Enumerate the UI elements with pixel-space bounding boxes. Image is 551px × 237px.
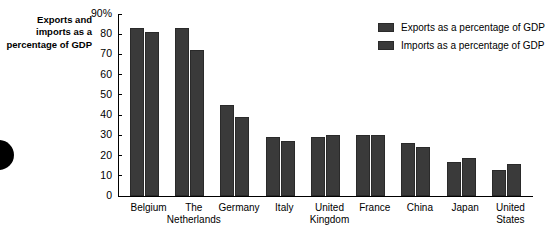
bar-exports xyxy=(447,162,461,196)
y-tick-mark xyxy=(118,175,122,176)
bar-group xyxy=(216,14,261,196)
legend-swatch-icon xyxy=(378,41,394,50)
legend-item-imports: Imports as a percentage of GDP xyxy=(378,38,545,53)
bar-imports xyxy=(235,117,249,196)
y-tick-mark xyxy=(118,135,122,136)
y-tick-label: 60 xyxy=(100,68,112,81)
bar-imports xyxy=(281,141,295,196)
y-tick-label: 90% xyxy=(91,7,112,20)
legend-swatch-icon xyxy=(378,23,394,32)
bar-exports xyxy=(311,137,325,196)
y-axis-line xyxy=(118,14,119,196)
y-tick-mark xyxy=(118,54,122,55)
legend-label: Imports as a percentage of GDP xyxy=(401,40,544,51)
bar-exports xyxy=(175,28,189,196)
legend-item-exports: Exports as a percentage of GDP xyxy=(378,20,545,35)
y-tick-label: 10 xyxy=(100,169,112,182)
y-tick-label: 20 xyxy=(100,149,112,162)
legend-label: Exports as a percentage of GDP xyxy=(401,22,545,33)
bar-exports xyxy=(401,143,415,196)
black-circle-marker xyxy=(0,140,14,170)
chart-legend: Exports as a percentage of GDPImports as… xyxy=(378,20,545,56)
bar-exports xyxy=(266,137,280,196)
bar-group xyxy=(307,14,352,196)
bar-imports xyxy=(145,32,159,196)
chart-title: Exports and imports as a percentage of G… xyxy=(6,14,92,51)
y-tick-mark xyxy=(118,115,122,116)
y-tick-label: 80 xyxy=(100,27,112,40)
bar-exports xyxy=(220,105,234,196)
x-axis-label-united-states: United States xyxy=(467,202,551,225)
bar-group xyxy=(171,14,216,196)
bar-imports xyxy=(326,135,340,196)
y-tick-mark xyxy=(118,94,122,95)
y-tick-label: 30 xyxy=(100,128,112,141)
y-tick-mark xyxy=(118,14,122,15)
y-tick-mark xyxy=(118,74,122,75)
y-tick-label: 50 xyxy=(100,88,112,101)
y-tick-label: 0 xyxy=(106,189,112,202)
y-tick-label: 70 xyxy=(100,47,112,60)
bar-exports xyxy=(130,28,144,196)
bar-imports xyxy=(507,164,521,196)
bar-group xyxy=(126,14,171,196)
bar-imports xyxy=(462,158,476,196)
bar-imports xyxy=(416,147,430,196)
bar-exports xyxy=(356,135,370,196)
bar-imports xyxy=(371,135,385,196)
y-tick-mark xyxy=(118,196,122,197)
x-axis-line xyxy=(118,196,533,197)
y-tick-label: 40 xyxy=(100,108,112,121)
y-tick-mark xyxy=(118,155,122,156)
bar-exports xyxy=(492,170,506,196)
y-tick-mark xyxy=(118,34,122,35)
bar-group xyxy=(262,14,307,196)
bar-imports xyxy=(190,50,204,196)
